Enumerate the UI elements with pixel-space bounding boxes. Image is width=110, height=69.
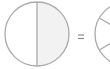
left-fraction-circle bbox=[5, 2, 69, 66]
circle-outline bbox=[95, 2, 110, 66]
shaded-half bbox=[37, 2, 69, 66]
equals-sign bbox=[78, 35, 84, 39]
divider-line bbox=[99, 18, 110, 34]
right-fraction-circle bbox=[95, 2, 110, 66]
divider-line bbox=[99, 34, 110, 50]
fraction-diagram bbox=[0, 0, 110, 69]
